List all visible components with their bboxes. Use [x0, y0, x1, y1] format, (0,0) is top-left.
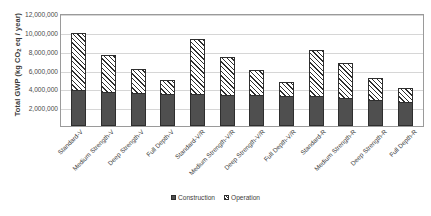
legend-label: Operation [231, 194, 260, 201]
bar-segment-operation[interactable] [101, 55, 116, 92]
bar-segment-construction[interactable] [101, 92, 116, 126]
legend-item[interactable]: Operation [224, 194, 260, 201]
bar-group [301, 15, 331, 126]
bar-segment-construction[interactable] [220, 95, 235, 126]
stacked-bar[interactable] [101, 55, 116, 126]
bar-group [272, 15, 302, 126]
bar-group [183, 15, 213, 126]
bar-segment-operation[interactable] [190, 39, 205, 94]
bar-segment-construction[interactable] [131, 93, 146, 126]
bar-segment-construction[interactable] [249, 95, 264, 126]
legend-swatch-construction [171, 195, 176, 200]
bar-group [361, 15, 391, 126]
y-axis-tick-label: 12,000,000 [14, 11, 58, 18]
y-axis-tick-label: 8,000,000 [14, 48, 58, 55]
bar-segment-construction[interactable] [279, 96, 294, 126]
bar-segment-construction[interactable] [160, 94, 175, 126]
bar-segment-operation[interactable] [398, 88, 413, 102]
legend-label: Construction [178, 194, 215, 201]
bar-segment-operation[interactable] [249, 70, 264, 95]
bar-group [153, 15, 183, 126]
bars-layer [61, 15, 423, 126]
y-axis-tick-label: 4,000,000 [14, 86, 58, 93]
stacked-bar[interactable] [368, 78, 383, 126]
plot-area [60, 14, 424, 127]
legend-item[interactable]: Construction [171, 194, 215, 201]
stacked-bar[interactable] [190, 39, 205, 126]
bar-segment-construction[interactable] [309, 96, 324, 126]
bar-segment-construction[interactable] [71, 90, 86, 126]
bar-group [242, 15, 272, 126]
bar-group [390, 15, 420, 126]
stacked-bar[interactable] [131, 69, 146, 126]
stacked-bar[interactable] [71, 33, 86, 126]
bar-group [212, 15, 242, 126]
stacked-bar[interactable] [220, 57, 235, 126]
stacked-bar[interactable] [309, 50, 324, 126]
bar-segment-operation[interactable] [220, 57, 235, 95]
stacked-bar[interactable] [160, 80, 175, 126]
bar-segment-construction[interactable] [190, 94, 205, 126]
y-axis-tick-label: 10,000,000 [14, 29, 58, 36]
ghg-stacked-bar-chart: Total GWP (kg CO2 eq / year) 2,000,0004,… [0, 0, 431, 216]
bar-group [94, 15, 124, 126]
bar-group [331, 15, 361, 126]
bar-segment-operation[interactable] [338, 63, 353, 98]
bar-segment-operation[interactable] [71, 33, 86, 90]
x-axis-tick-labels: Standard-VMedium Strength-VDeep Strength… [60, 128, 424, 188]
bar-segment-operation[interactable] [279, 82, 294, 96]
chart-legend: ConstructionOperation [0, 194, 431, 201]
y-axis-tick-label: 2,000,000 [14, 105, 58, 112]
stacked-bar[interactable] [249, 70, 264, 126]
stacked-bar[interactable] [398, 88, 413, 126]
bar-segment-construction[interactable] [398, 102, 413, 126]
bar-group [64, 15, 94, 126]
stacked-bar[interactable] [279, 82, 294, 126]
legend-swatch-operation [224, 195, 229, 200]
y-axis-tick-label: 6,000,000 [14, 67, 58, 74]
bar-segment-operation[interactable] [160, 80, 175, 94]
bar-segment-operation[interactable] [309, 50, 324, 96]
bar-segment-operation[interactable] [368, 78, 383, 100]
y-axis-tick-labels: 2,000,0004,000,0006,000,0008,000,00010,0… [14, 14, 58, 127]
bar-segment-operation[interactable] [131, 69, 146, 93]
bar-segment-construction[interactable] [368, 100, 383, 126]
stacked-bar[interactable] [338, 63, 353, 126]
bar-segment-construction[interactable] [338, 98, 353, 126]
bar-group [123, 15, 153, 126]
